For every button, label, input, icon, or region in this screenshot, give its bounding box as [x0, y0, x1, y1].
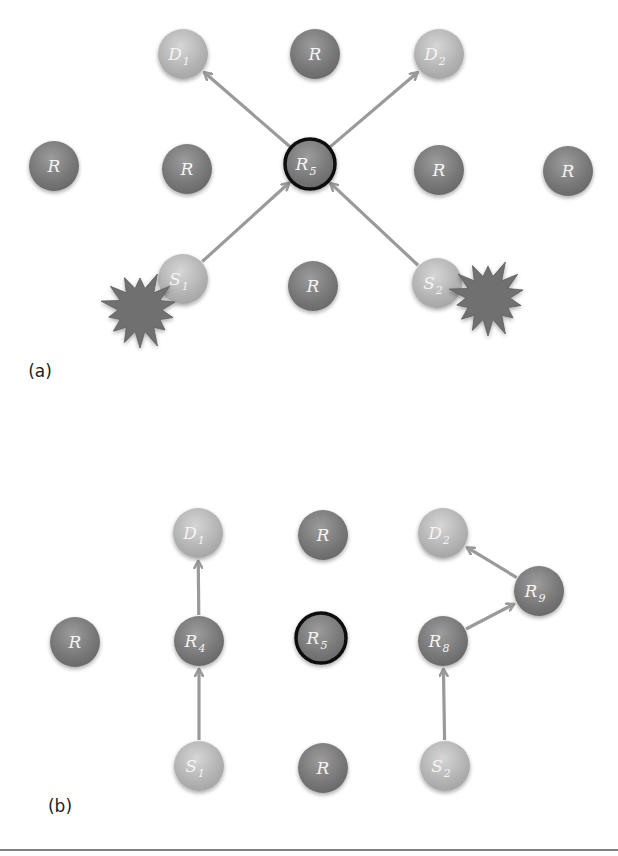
destination-node-circle [414, 29, 464, 79]
node-label: R [180, 159, 194, 179]
node-label: R [432, 160, 446, 180]
node-s2: S2 [420, 741, 470, 791]
node-label: R [316, 525, 330, 545]
node-d1: D1 [173, 508, 223, 558]
destination-node-circle [418, 508, 468, 558]
interference-burst-icon [449, 262, 523, 336]
node-r8: R8 [418, 616, 468, 666]
node-r5: R5 [285, 139, 335, 189]
arrow-r9-to-d2 [467, 547, 517, 577]
arrow-r5-to-d2 [330, 72, 418, 147]
source-node-circle [174, 741, 224, 791]
node-rr1: R [414, 145, 464, 195]
node-s1: S1 [158, 254, 208, 304]
arrow-s1-to-r5 [202, 183, 289, 262]
nodes: D1RD2RRR5RRS1RS2 [29, 29, 593, 311]
node-rl: R [50, 617, 100, 667]
node-label: R [316, 758, 330, 778]
bottleneck-node-circle [285, 139, 335, 189]
relay-node-circle [174, 616, 224, 666]
node-rb: R [298, 743, 348, 793]
relay-node-circle [418, 616, 468, 666]
node-r9: R9 [514, 566, 564, 616]
node-label: R [561, 161, 575, 181]
bottleneck-node-circle [296, 613, 346, 663]
relay-node-circle [514, 566, 564, 616]
edges [198, 547, 516, 740]
node-s1: S1 [174, 741, 224, 791]
node-rt: R [290, 29, 340, 79]
node-label: R [306, 276, 320, 296]
arrow-r5-to-d1 [204, 72, 290, 147]
nodes: D1RD2RR4R5R8R9S1RS2 [50, 508, 564, 793]
destination-node-circle [173, 508, 223, 558]
relay-network-diagram: D1RD2RRR5RRS1RS2(a) D1RD2RR4R5R8R9S1RS2(… [0, 0, 618, 856]
node-rt: R [298, 510, 348, 560]
node-rl1: R [29, 141, 79, 191]
panel-a: D1RD2RRR5RRS1RS2(a) [28, 29, 593, 381]
node-rl2: R [162, 144, 212, 194]
arrow-s2-to-r8 [443, 669, 444, 740]
arrow-r4-to-d1 [198, 561, 199, 615]
source-node-circle [420, 741, 470, 791]
arrow-s2-to-r5 [330, 183, 418, 265]
node-rb: R [288, 261, 338, 311]
node-d1: D1 [158, 29, 208, 79]
node-label: R [308, 44, 322, 64]
node-s2: S2 [412, 258, 462, 308]
node-rr2: R [543, 146, 593, 196]
node-label: R [47, 156, 61, 176]
source-node-circle [158, 254, 208, 304]
panel-b: D1RD2RR4R5R8R9S1RS2(b) [48, 508, 564, 816]
arrow-r8-to-r9 [466, 604, 514, 629]
source-node-circle [412, 258, 462, 308]
node-d2: D2 [418, 508, 468, 558]
destination-node-circle [158, 29, 208, 79]
panel-label-a: (a) [28, 361, 52, 381]
node-r4: R4 [174, 616, 224, 666]
node-d2: D2 [414, 29, 464, 79]
panel-label-b: (b) [48, 796, 72, 816]
node-label: R [68, 632, 82, 652]
node-r5: R5 [296, 613, 346, 663]
